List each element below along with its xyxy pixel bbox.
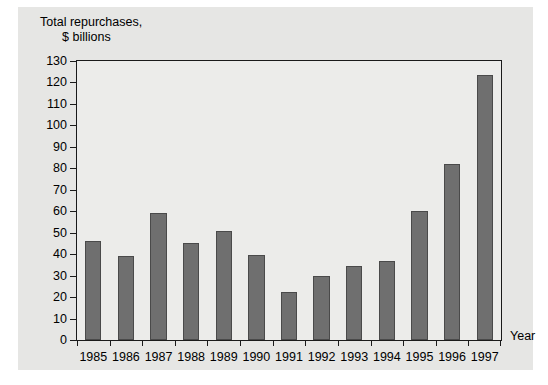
y-axis-tick-mark (70, 125, 77, 126)
bar (281, 292, 297, 340)
x-axis-tick-mark (468, 340, 469, 346)
y-axis-tick-label: 0 (60, 333, 67, 347)
x-axis-tick-label: 1988 (177, 350, 205, 364)
x-axis-tick-mark (338, 340, 339, 346)
bar (444, 164, 460, 340)
y-axis-tick-mark (70, 254, 77, 255)
x-axis-tick-mark (175, 340, 176, 346)
plot-area: 0102030405060708090100110120130 19851986… (76, 60, 502, 341)
x-axis-tick-mark (207, 340, 208, 346)
y-axis-tick-label: 20 (53, 290, 67, 304)
x-axis-tick-label: 1993 (340, 350, 368, 364)
bar (118, 256, 134, 340)
y-axis-tick-mark (70, 233, 77, 234)
bar (313, 276, 329, 340)
y-axis-tick-label: 100 (46, 118, 67, 132)
x-axis-tick-label: 1989 (210, 350, 238, 364)
y-axis-tick-label: 70 (53, 183, 67, 197)
bar (216, 231, 232, 340)
x-axis-tick-mark (500, 340, 501, 346)
y-axis-tick-label: 90 (53, 140, 67, 154)
y-axis-title-line-1: Total repurchases, (40, 15, 142, 29)
y-axis-tick-label: 50 (53, 226, 67, 240)
y-axis-tick-label: 110 (47, 97, 67, 111)
x-axis-tick-mark (273, 340, 274, 346)
x-axis-label: Year (510, 329, 535, 343)
x-axis-tick-label: 1992 (308, 350, 336, 364)
y-axis-tick-mark (70, 319, 77, 320)
bar (248, 255, 264, 340)
bar (150, 213, 166, 340)
x-axis-tick-label: 1994 (373, 350, 401, 364)
y-axis-tick-label: 40 (53, 247, 67, 261)
x-axis-tick-label: 1990 (242, 350, 270, 364)
x-axis-tick-label: 1991 (275, 350, 303, 364)
bar (85, 241, 101, 340)
y-axis-tick-label: 60 (53, 204, 67, 218)
x-axis-tick-label: 1997 (471, 350, 499, 364)
y-axis-tick-mark (70, 297, 77, 298)
y-axis-tick-mark (70, 82, 77, 83)
y-axis-tick-mark (70, 211, 77, 212)
x-axis-tick-mark (403, 340, 404, 346)
y-axis-tick-mark (70, 190, 77, 191)
x-axis-tick-mark (142, 340, 143, 346)
y-axis-tick-mark (70, 61, 77, 62)
x-axis-tick-label: 1985 (79, 350, 107, 364)
y-axis-tick-label: 130 (46, 54, 67, 68)
bar (346, 266, 362, 340)
bar (411, 211, 427, 340)
x-axis-tick-mark (110, 340, 111, 346)
y-axis-tick-mark (70, 104, 77, 105)
x-axis-tick-label: 1996 (438, 350, 466, 364)
bar (379, 261, 395, 340)
x-axis-tick-label: 1987 (145, 350, 173, 364)
y-axis-title: Total repurchases, $ billions (40, 15, 142, 45)
y-axis-tick-mark (70, 276, 77, 277)
x-axis-tick-mark (240, 340, 241, 346)
bar (183, 243, 199, 340)
y-axis-tick-label: 80 (53, 161, 67, 175)
y-axis-tick-mark (70, 340, 77, 341)
y-axis-title-line-2: $ billions (40, 30, 142, 45)
x-axis-tick-mark (77, 340, 78, 346)
figure-panel: Total repurchases, $ billions Year 01020… (18, 7, 533, 370)
y-axis-tick-label: 30 (53, 269, 67, 283)
x-axis-tick-label: 1995 (406, 350, 434, 364)
y-axis-tick-mark (70, 168, 77, 169)
x-axis-tick-mark (436, 340, 437, 346)
x-axis-tick-mark (305, 340, 306, 346)
y-axis-tick-label: 10 (53, 312, 67, 326)
x-axis-tick-label: 1986 (112, 350, 140, 364)
bar (477, 75, 493, 340)
y-axis-tick-mark (70, 147, 77, 148)
x-axis-tick-mark (371, 340, 372, 346)
y-axis-tick-label: 120 (46, 75, 67, 89)
